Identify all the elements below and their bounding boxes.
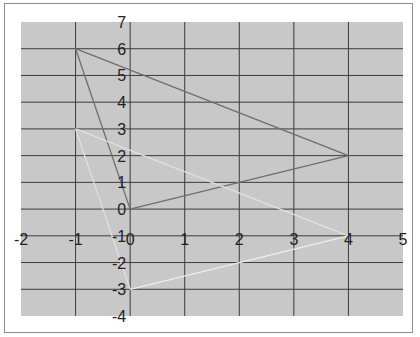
x-tick-label: 2 [235, 231, 244, 248]
y-tick-label: 3 [117, 121, 126, 138]
y-tick-label: -1 [112, 228, 126, 245]
y-tick-label: 2 [117, 148, 126, 165]
y-tick-label: -3 [112, 281, 126, 298]
y-tick-label: -4 [112, 308, 126, 325]
x-tick-label: 0 [126, 231, 135, 248]
y-tick-label: 7 [117, 14, 126, 31]
x-tick-label: 5 [399, 231, 408, 248]
y-tick-label: 6 [117, 41, 126, 58]
y-tick-label: 5 [117, 67, 126, 84]
plot-area [21, 22, 403, 316]
x-tick-label: 4 [344, 231, 353, 248]
y-tick-label: 4 [117, 94, 126, 111]
y-tick-label: -2 [112, 255, 126, 272]
x-tick-label: -1 [68, 231, 82, 248]
line-chart: 76543210-1-2-3-4-2-1012345 [0, 0, 420, 337]
x-tick-label: 1 [180, 231, 189, 248]
x-tick-label: -2 [14, 231, 28, 248]
y-tick-label: 0 [117, 201, 126, 218]
y-tick-label: 1 [117, 174, 126, 191]
x-tick-label: 3 [289, 231, 298, 248]
